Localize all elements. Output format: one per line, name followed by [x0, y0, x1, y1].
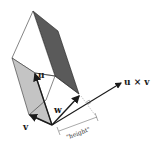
label-v: v [22, 122, 29, 132]
height-tick [95, 113, 98, 121]
diagram-svg: u w v u × v "height" [0, 0, 162, 151]
parallelepiped-diagram: u w v u × v "height" [0, 0, 162, 151]
vector-u-cross-v [52, 83, 121, 125]
label-w: w [53, 105, 62, 115]
label-u: u [38, 70, 45, 80]
edge [46, 76, 55, 100]
label-u-cross-v: u × v [124, 77, 150, 87]
